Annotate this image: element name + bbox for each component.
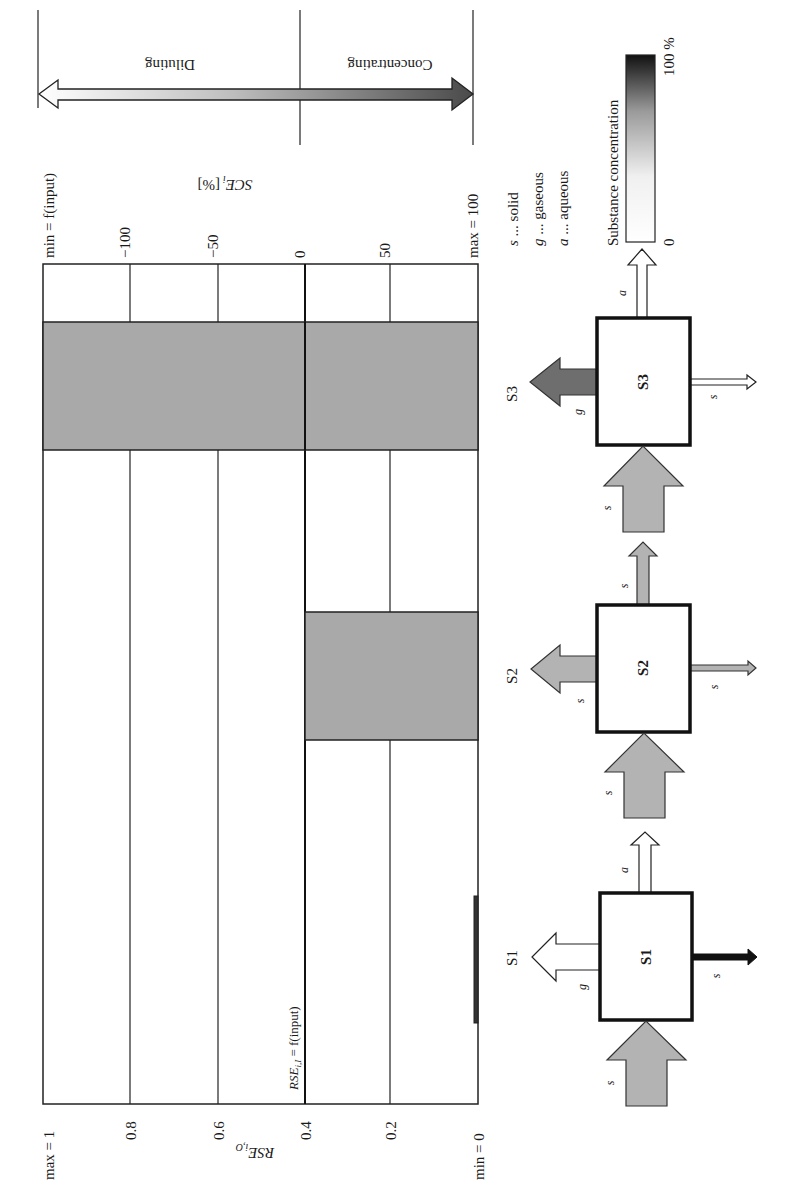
S3-input-label: s	[600, 505, 614, 510]
S3-gas-label: g	[571, 409, 585, 415]
S2-solid-out-label: s	[707, 684, 721, 689]
process-stage-S2: s s s S2 s	[531, 542, 756, 818]
svg-text:RSEi,O: RSEi,O	[236, 1142, 275, 1161]
sce-axis-ticks: min = f(input) −100 −50 0 50 max = 100	[41, 173, 481, 258]
sce-tick-50: 50	[377, 243, 393, 258]
stage-label-S3: S3	[504, 386, 520, 402]
sce-label: SCE	[226, 177, 253, 193]
stage-box-label-S1: S1	[638, 949, 654, 965]
rse-tick-max: max = 1	[41, 1131, 57, 1180]
colorbar-min-label: 0	[661, 239, 677, 247]
rse-tick-min: min = 0	[471, 1133, 487, 1180]
rse-tick-0.6: 0.6	[211, 1121, 227, 1140]
legend: s ... solid g ... gaseous a ... aqueous …	[505, 37, 677, 246]
sce-tick-neg50: −50	[205, 235, 221, 258]
S1-input-label: s	[603, 1080, 617, 1085]
bar-S3[interactable]	[43, 322, 478, 450]
stage-box-label-S2: S2	[635, 660, 651, 676]
arrow-S1-gas-out	[532, 933, 600, 981]
concentrating-label: Concentrating	[347, 57, 432, 73]
arrow-S3-gas-out	[530, 358, 597, 406]
stage-label-S2: S2	[504, 668, 520, 684]
arrow-S1-solid-in	[607, 1021, 686, 1106]
S3-solid-out-label: s	[706, 394, 720, 399]
sce-tick-0: 0	[292, 251, 308, 259]
S2-left-out-label: s	[573, 698, 587, 703]
arrow-S3-aqueous-out	[628, 249, 656, 318]
rse-tick-0.2: 0.2	[383, 1121, 399, 1140]
S1-gas-label: g	[575, 984, 589, 990]
S2-upper-out-label: s	[617, 583, 631, 588]
stage-box-label-S3: S3	[635, 374, 651, 390]
colorbar-title: Substance concentration	[605, 99, 621, 246]
legend-solid: s ... solid	[505, 192, 521, 246]
arrow-S1-solid-out	[692, 949, 757, 965]
sce-subscript: i	[223, 174, 226, 185]
process-stage-S1: a g s S1 s	[532, 832, 757, 1106]
arrow-S1-aqueous-out	[631, 832, 659, 893]
double-arrow-icon	[39, 78, 473, 110]
reference-line-label: RSEi,I = f(input)	[286, 1006, 303, 1091]
plot-area: RSEi,I = f(input)	[43, 264, 478, 1104]
S3-aqueous-label: a	[615, 290, 629, 296]
S1-aqueous-label: a	[617, 867, 631, 873]
bar-S2[interactable]	[305, 612, 478, 740]
arrow-S3-solid-out	[690, 375, 756, 389]
S1-solid-out-label: s	[709, 973, 723, 978]
arrow-S2-solid-to-S3	[629, 542, 657, 605]
colorbar	[626, 55, 655, 242]
sce-unit: [%]	[198, 177, 221, 193]
sce-tick-neg100: −100	[117, 227, 133, 258]
process-stage-S3: S3 g a s s	[530, 249, 756, 532]
figure-canvas: Diluting Concentrating SCEi[%] min = f(i…	[0, 0, 802, 1198]
svg-text:SCEi[%]: SCEi[%]	[198, 174, 253, 193]
rse-tick-0.8: 0.8	[123, 1121, 139, 1140]
diluting-label: Diluting	[145, 57, 196, 73]
legend-gaseous: g ... gaseous	[530, 172, 546, 246]
S2-input-label: s	[601, 790, 615, 795]
legend-aqueous: a ... aqueous	[555, 170, 571, 246]
bar-S1[interactable]	[474, 896, 478, 1023]
arrow-S2-left-out	[531, 645, 597, 693]
colorbar-max-label: 100 %	[661, 37, 677, 76]
stage-label-S1: S1	[504, 950, 520, 966]
arrow-S2-solid-in	[605, 733, 684, 818]
rse-axis-title: RSEi,O	[236, 1142, 275, 1161]
sce-axis-title: SCEi[%]	[198, 174, 253, 193]
sce-tick-min: min = f(input)	[41, 173, 58, 258]
rse-tick-0.4: 0.4	[298, 1121, 314, 1140]
arrow-S3-solid-in	[604, 446, 683, 532]
sce-tick-max: max = 100	[465, 194, 481, 258]
arrow-S2-solid-out	[690, 661, 756, 675]
direction-indicator: Diluting Concentrating	[38, 10, 473, 145]
